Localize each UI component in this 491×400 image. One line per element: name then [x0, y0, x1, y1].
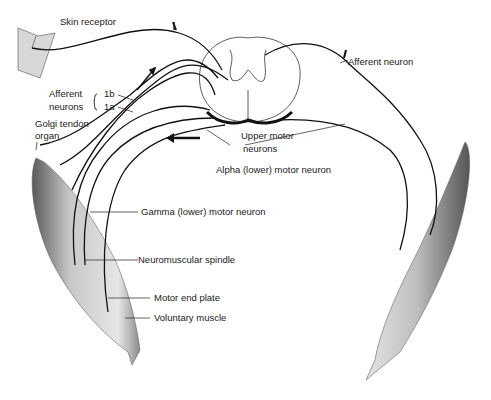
label-gamma-motor-neuron: Gamma (lower) motor neuron [141, 206, 266, 217]
right-voluntary-muscle [366, 142, 470, 380]
spinal-cord [199, 37, 300, 122]
label-golgi-organ: organ [35, 130, 59, 141]
label-fiber-1b: 1b [104, 88, 115, 99]
label-golgi-tendon: Golgi tendon [35, 118, 89, 129]
label-fiber-1a: 1a [104, 101, 115, 112]
label-afferent-neurons-2: neurons [49, 101, 83, 112]
skin-receptor-patch [18, 28, 55, 78]
label-afferent-neurons: Afferent [49, 88, 82, 99]
label-upper-motor-2: neurons [243, 143, 277, 154]
label-skin-receptor: Skin receptor [60, 16, 116, 27]
left-voluntary-muscle [32, 158, 140, 365]
label-alpha-motor-neuron: Alpha (lower) motor neuron [216, 164, 331, 175]
label-afferent-neuron: Afferent neuron [348, 56, 413, 67]
label-motor-end-plate: Motor end plate [154, 292, 220, 303]
label-voluntary-muscle: Voluntary muscle [154, 312, 226, 323]
reflex-arc-diagram [0, 0, 491, 400]
label-upper-motor: Upper motor [241, 130, 294, 141]
label-neuromuscular-spindle: Neuromuscular spindle [138, 254, 235, 265]
